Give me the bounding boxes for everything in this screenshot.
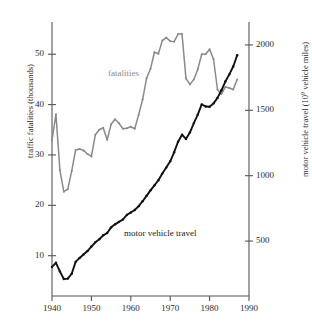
series-point (232, 65, 234, 67)
series-point (114, 118, 116, 120)
series-point (110, 226, 112, 228)
left-axis-tick-label: 50 (0, 48, 44, 58)
left-axis-tick-label: 40 (0, 99, 44, 109)
series-point (220, 89, 222, 91)
series-point (173, 151, 175, 153)
series-point (197, 113, 199, 115)
series-point (118, 221, 120, 223)
series-point (90, 155, 92, 157)
left-axis-tick-label: 30 (0, 149, 44, 159)
series-point (236, 78, 238, 80)
series-point (106, 139, 108, 141)
series-point (204, 105, 206, 107)
series-point (216, 97, 218, 99)
series-point (177, 140, 179, 142)
travel-series-annotation: motor vehicle travel (124, 228, 196, 238)
series-point (94, 241, 96, 243)
fatalities-series-annotation: fatalities (108, 68, 139, 78)
right-axis-title-prefix: motor vehicle travel (10 (300, 95, 310, 177)
series-point (67, 188, 69, 190)
series-point (86, 250, 88, 252)
series-point (86, 153, 88, 155)
chart-axes (52, 22, 249, 296)
series-point (75, 149, 77, 151)
series-point (126, 127, 128, 129)
series-point (181, 33, 183, 35)
series-point (98, 238, 100, 240)
series-point (141, 200, 143, 202)
series-point (102, 234, 104, 236)
series-point (78, 257, 80, 259)
series-point (157, 53, 159, 55)
series-point (161, 40, 163, 42)
series-fatalities (51, 33, 238, 193)
series-point (114, 223, 116, 225)
series-point (71, 273, 73, 275)
series-point (51, 266, 53, 268)
series-point (90, 245, 92, 247)
series-point (189, 83, 191, 85)
series-point (67, 277, 69, 279)
series-point (134, 209, 136, 211)
series-point (205, 53, 207, 55)
series-point (83, 149, 85, 151)
series-point (94, 134, 96, 136)
series-point (165, 166, 167, 168)
chart-series (51, 33, 239, 280)
left-axis-tick-label: 20 (0, 199, 44, 209)
series-point (153, 51, 155, 53)
series-point (177, 33, 179, 35)
series-point (59, 270, 61, 272)
series-point (122, 128, 124, 130)
series-point (189, 131, 191, 133)
series-point (185, 138, 187, 140)
series-point (98, 129, 100, 131)
right-axis-tick-label: 1500 (256, 104, 274, 114)
series-point (208, 106, 210, 108)
series-point (173, 41, 175, 43)
series-point (181, 134, 183, 136)
series-point (228, 87, 230, 89)
series-point (197, 68, 199, 70)
series-point (63, 278, 65, 280)
series-point (185, 77, 187, 79)
series-point (59, 169, 61, 171)
right-axis-tick-label: 2000 (256, 39, 274, 49)
series-point (137, 205, 139, 207)
series-point (82, 253, 84, 255)
chart-tick-marks (48, 45, 253, 301)
series-point (63, 191, 65, 193)
chart-figure: traffic fatalities (thousands) motor veh… (0, 0, 312, 328)
series-point (102, 127, 104, 129)
series-point (236, 54, 238, 56)
series-point (165, 37, 167, 39)
right-axis-title: motor vehicle travel (109 vehicle miles) (300, 19, 311, 199)
series-point (138, 114, 140, 116)
right-axis-tick-label: 500 (256, 235, 270, 245)
left-axis-tick-label: 10 (0, 250, 44, 260)
series-point (193, 122, 195, 124)
series-point (224, 80, 226, 82)
series-point (51, 139, 53, 141)
series-point (71, 170, 73, 172)
series-point (122, 218, 124, 220)
series-point (118, 122, 120, 124)
series-point (134, 128, 136, 130)
series-point (224, 86, 226, 88)
series-point (106, 232, 108, 234)
series-point (228, 73, 230, 75)
series-point (126, 214, 128, 216)
series-point (157, 179, 159, 181)
series-point (150, 68, 152, 70)
series-point (145, 195, 147, 197)
series-point (130, 211, 132, 213)
series-point (209, 48, 211, 50)
series-point (153, 184, 155, 186)
right-axis-tick-label: 1000 (256, 170, 274, 180)
series-point (213, 58, 215, 60)
series-point (193, 78, 195, 80)
series-point (55, 113, 57, 115)
series-point (110, 123, 112, 125)
x-axis-tick-label: 1990 (219, 303, 279, 313)
series-point (201, 53, 203, 55)
